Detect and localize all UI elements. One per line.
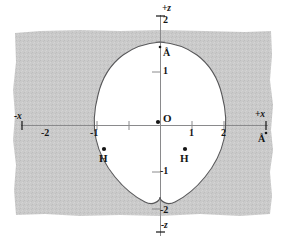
hydrogen-nucleus-dot-right (183, 147, 187, 151)
molecular-contour-figure: +z 2 Å 1 O -1 -2 -z -x -2 -1 1 2 +x Å H … (0, 0, 291, 247)
x-axis-negative-label: -x (14, 112, 22, 122)
hydrogen-nucleus-dot-left (102, 147, 106, 151)
z-tick-label-2: 2 (163, 15, 168, 25)
origin-label: O (163, 113, 171, 124)
contour-plot-canvas (0, 0, 291, 247)
z-unit-marker-dot (159, 46, 162, 49)
z-axis-positive-label: +z (162, 4, 171, 14)
atom-label-hydrogen-right: H (180, 153, 188, 164)
outside-density-region (0, 0, 291, 247)
x-tick-label-neg1: -1 (90, 128, 98, 138)
atom-label-hydrogen-left: H (99, 153, 107, 164)
z-axis-unit-label: Å (163, 48, 170, 58)
x-tick-label-2: 2 (221, 128, 226, 138)
z-tick-label-1: 1 (163, 66, 168, 76)
z-tick-label-neg2: -2 (160, 205, 168, 215)
z-axis-negative-label: -z (161, 221, 167, 231)
z-tick-label-neg1: -1 (160, 166, 168, 176)
x-unit-marker-dot (265, 132, 268, 135)
x-tick-label-neg2: -2 (41, 128, 49, 138)
x-axis-positive-label: +x (255, 110, 265, 120)
x-tick-label-1: 1 (189, 128, 194, 138)
x-axis-unit-label: Å (258, 134, 265, 144)
oxygen-nucleus-dot (156, 120, 160, 124)
